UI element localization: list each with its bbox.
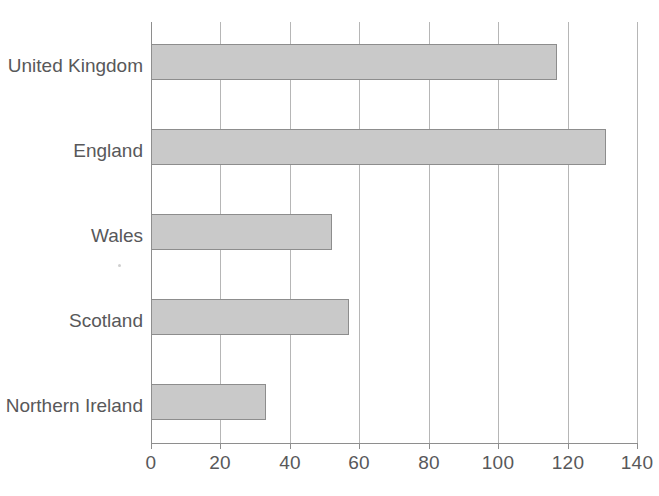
x-axis-line xyxy=(151,443,638,444)
category-label-united-kingdom: United Kingdom xyxy=(0,55,143,77)
x-tick-label-100: 100 xyxy=(468,452,528,474)
bar-wales xyxy=(151,214,332,250)
x-tick-label-0: 0 xyxy=(121,452,181,474)
x-tick-120 xyxy=(568,443,569,449)
x-tick-label-40: 40 xyxy=(260,452,320,474)
bar-scotland xyxy=(151,299,349,335)
x-tick-label-140: 140 xyxy=(607,452,659,474)
x-tick-20 xyxy=(220,443,221,449)
gridline-140 xyxy=(637,22,638,443)
gridline-100 xyxy=(498,22,499,443)
x-tick-140 xyxy=(637,443,638,449)
x-tick-0 xyxy=(151,443,152,449)
x-tick-60 xyxy=(359,443,360,449)
scan-artifact-speck xyxy=(118,264,121,267)
gridline-60 xyxy=(359,22,360,443)
x-tick-label-60: 60 xyxy=(329,452,389,474)
plot-area xyxy=(151,22,637,443)
x-tick-40 xyxy=(290,443,291,449)
x-tick-80 xyxy=(429,443,430,449)
gridline-80 xyxy=(429,22,430,443)
bar-united-kingdom xyxy=(151,44,557,80)
x-tick-label-80: 80 xyxy=(399,452,459,474)
y-axis-line xyxy=(151,22,152,443)
bar-chart: 0 20 40 60 80 100 120 140 United Kingdom… xyxy=(0,0,659,496)
category-label-northern-ireland: Northern Ireland xyxy=(0,395,143,417)
gridline-120 xyxy=(568,22,569,443)
category-label-england: England xyxy=(0,140,143,162)
category-label-scotland: Scotland xyxy=(0,310,143,332)
bar-england xyxy=(151,129,606,165)
x-tick-label-120: 120 xyxy=(538,452,598,474)
bar-northern-ireland xyxy=(151,384,266,420)
x-tick-100 xyxy=(498,443,499,449)
x-tick-label-20: 20 xyxy=(190,452,250,474)
category-label-wales: Wales xyxy=(0,225,143,247)
